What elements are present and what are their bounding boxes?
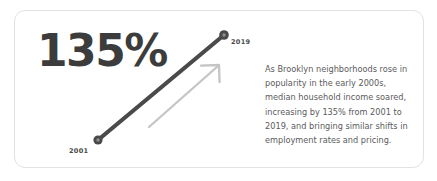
data-point-dot-end-center (222, 33, 225, 36)
data-point-dot-start-center (96, 138, 99, 141)
stat-figure: 135% (37, 29, 167, 73)
year-label-end: 2019 (231, 38, 250, 46)
data-point-dot-start (93, 135, 102, 144)
infographic-card: 135% 2001 2019 As Brooklyn neighborhoods… (14, 10, 424, 168)
year-label-start: 2001 (69, 147, 88, 155)
description-text: As Brooklyn neighborhoods rose in popula… (265, 62, 409, 147)
data-point-dot-end (219, 30, 229, 40)
